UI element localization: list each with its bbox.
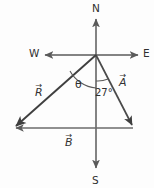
vector-diagram-canvas (0, 0, 154, 188)
vector-diagram: N S W E → A → B → R θ 27° (0, 0, 154, 188)
vector-label-r: → R (35, 84, 43, 98)
compass-label-south: S (92, 175, 99, 186)
vector-label-b: → B (65, 134, 73, 148)
angle-label-theta: θ (75, 79, 82, 90)
compass-label-north: N (92, 3, 100, 14)
angle-label-27: 27° (95, 88, 113, 98)
vector-a-letter: A (119, 76, 127, 89)
vector-label-a: → A (119, 74, 127, 88)
vector-r-letter: R (35, 86, 43, 99)
compass-label-west: W (29, 48, 39, 59)
vector-b-letter: B (65, 136, 73, 149)
vector-r-line (16, 55, 96, 126)
compass-label-east: E (143, 48, 150, 59)
angle-27-arc (96, 79, 108, 81)
